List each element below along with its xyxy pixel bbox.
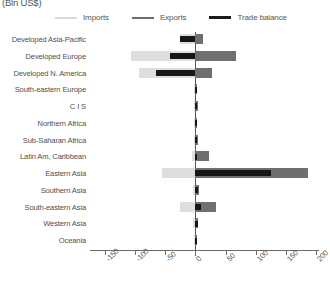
category-label: Northern Africa: [38, 116, 86, 133]
bar-group: [90, 233, 319, 250]
x-axis-tick-label: -50: [164, 250, 178, 264]
bar-balance[interactable]: [195, 238, 196, 244]
bar-exports[interactable]: [195, 151, 208, 161]
bar-group: [90, 166, 319, 183]
bar-balance[interactable]: [195, 87, 196, 93]
legend-item-imports[interactable]: Imports: [55, 13, 109, 22]
x-axis-tick-label: 150: [285, 248, 300, 263]
category-label: South-eastern Asia: [25, 200, 86, 217]
x-axis-tick-label: 200: [315, 248, 330, 263]
x-axis-tick-label: 0: [194, 254, 203, 263]
category-label: Sub-Saharan Africa: [23, 133, 86, 150]
category-label: Developed Europe: [25, 49, 86, 66]
bar-balance[interactable]: [170, 53, 196, 59]
plot-area: [90, 32, 319, 250]
category-label: Oceania: [59, 233, 86, 250]
bar-group: [90, 149, 319, 166]
bar-group: [90, 183, 319, 200]
category-label: Latin Am, Caribbean: [20, 149, 86, 166]
legend-swatch-exports-icon: [132, 17, 154, 19]
legend-swatch-trade-balance-icon: [209, 16, 231, 19]
bar-balance[interactable]: [195, 221, 197, 227]
category-label: South-eastern Europe: [15, 82, 86, 99]
category-label: Western Asia: [43, 216, 86, 233]
bar-group: [90, 216, 319, 233]
chart-legend: Imports Exports Trade balance: [55, 13, 287, 22]
legend-label-imports: Imports: [83, 13, 109, 22]
bar-group: [90, 116, 319, 133]
bar-imports[interactable]: [180, 202, 195, 212]
category-label: Developed N. America: [13, 66, 86, 83]
category-label: Eastern Asia: [45, 166, 86, 183]
bar-group: [90, 82, 319, 99]
bar-group: [90, 133, 319, 150]
bar-balance[interactable]: [195, 154, 197, 160]
x-axis-tick-label: -100: [134, 247, 151, 264]
legend-label-exports: Exports: [160, 13, 186, 22]
bar-balance[interactable]: [195, 103, 197, 109]
category-label: Developed Asia-Pacific: [12, 32, 86, 49]
legend-swatch-imports-icon: [55, 17, 77, 19]
bar-imports[interactable]: [162, 168, 195, 178]
bar-balance[interactable]: [195, 120, 196, 126]
bar-balance[interactable]: [195, 187, 198, 193]
bar-exports[interactable]: [195, 51, 236, 61]
legend-item-exports[interactable]: Exports: [132, 13, 186, 22]
bar-balance[interactable]: [180, 36, 195, 42]
x-axis: -150-100-50050100150200: [90, 250, 319, 251]
category-label: C I S: [70, 99, 86, 116]
chart-unit-title: (Bln US$): [2, 0, 41, 8]
legend-item-trade-balance[interactable]: Trade balance: [209, 13, 287, 22]
legend-label-trade-balance: Trade balance: [237, 13, 287, 22]
bar-group: [90, 66, 319, 83]
bar-exports[interactable]: [195, 34, 202, 44]
bar-group: [90, 32, 319, 49]
bar-balance[interactable]: [156, 70, 196, 76]
bar-balance[interactable]: [195, 170, 270, 176]
bar-balance[interactable]: [195, 137, 197, 143]
bar-balance[interactable]: [195, 204, 201, 210]
category-label: Southern Asia: [41, 183, 86, 200]
x-axis-tick-label: 100: [255, 248, 270, 263]
bar-group: [90, 49, 319, 66]
bar-exports[interactable]: [195, 68, 212, 78]
bar-group: [90, 99, 319, 116]
x-axis-tick-label: -150: [104, 247, 121, 264]
bar-group: [90, 200, 319, 217]
category-axis-labels: Developed Asia-PacificDeveloped EuropeDe…: [0, 32, 86, 250]
